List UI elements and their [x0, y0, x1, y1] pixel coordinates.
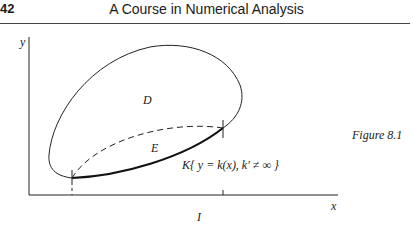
- x-axis-label: x: [331, 199, 336, 214]
- interval-label: I: [197, 210, 201, 225]
- y-axis-label: y: [20, 35, 25, 50]
- region-label-e: E: [151, 141, 158, 156]
- figure-diagram: [0, 0, 413, 225]
- region-label-d: D: [143, 93, 152, 108]
- curve-k-label: K{ y = k(x), k′ ≠ ∞ }: [182, 158, 279, 173]
- figure-caption: Figure 8.1: [352, 128, 402, 143]
